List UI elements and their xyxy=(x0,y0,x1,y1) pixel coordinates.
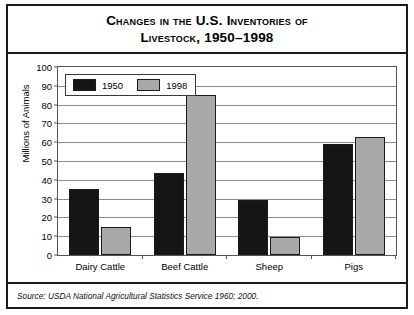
chart-title-line-2: Livestock, 1950–1998 xyxy=(106,29,308,46)
y-axis-tick-label: 50 xyxy=(41,156,52,167)
bar-group: Sheep xyxy=(227,67,312,255)
legend-label-1998: 1998 xyxy=(166,80,187,91)
source-note: Source: USDA National Agricultural Stati… xyxy=(8,291,259,301)
y-axis-tick-label: 10 xyxy=(41,231,52,242)
bar-dairy-cattle-1950 xyxy=(69,189,99,255)
x-axis-label-sheep: Sheep xyxy=(256,261,283,272)
source-label: Source: xyxy=(17,291,46,301)
legend-item-1998: 1998 xyxy=(137,79,187,91)
chart-title-band: Changes in the U.S. Inventories of Lives… xyxy=(8,6,406,54)
bar-sheep-1950 xyxy=(238,200,268,255)
x-axis-label-dairy-cattle: Dairy Cattle xyxy=(75,261,125,272)
y-axis-tick-label: 40 xyxy=(41,174,52,185)
source-band: Source: USDA National Agricultural Stati… xyxy=(8,282,406,307)
x-axis-label-pigs: Pigs xyxy=(345,261,363,272)
y-axis-tick-label: 0 xyxy=(47,250,52,261)
legend-swatch-1998 xyxy=(137,79,160,91)
bar-group: Pigs xyxy=(312,67,397,255)
bar-pigs-1950 xyxy=(323,144,353,255)
x-axis-tick-mark xyxy=(395,255,396,259)
y-axis-tick-label: 90 xyxy=(41,80,52,91)
chart-title: Changes in the U.S. Inventories of Lives… xyxy=(106,12,308,46)
y-axis-tick-label: 20 xyxy=(41,212,52,223)
y-axis-tick-label: 30 xyxy=(41,193,52,204)
x-axis-tick-mark xyxy=(226,255,227,259)
x-axis-tick-mark xyxy=(142,255,143,259)
legend-item-1950: 1950 xyxy=(73,79,123,91)
y-axis-title: Millions of Animals xyxy=(20,54,31,194)
chart-figure: Changes in the U.S. Inventories of Lives… xyxy=(0,0,414,315)
bar-beef-cattle-1950 xyxy=(154,173,184,255)
y-axis-tick-label: 60 xyxy=(41,137,52,148)
y-axis-tick-label: 80 xyxy=(41,99,52,110)
bar-sheep-1998 xyxy=(270,237,300,255)
bar-dairy-cattle-1998 xyxy=(101,227,131,255)
y-axis-tick-label: 70 xyxy=(41,118,52,129)
bar-beef-cattle-1998 xyxy=(186,95,216,255)
x-axis-label-beef-cattle: Beef Cattle xyxy=(161,261,208,272)
legend-label-1950: 1950 xyxy=(102,80,123,91)
y-axis-tick-label: 100 xyxy=(36,62,52,73)
plot-area: 0102030405060708090100 Dairy CattleBeef … xyxy=(57,66,397,256)
chart-legend: 1950 1998 xyxy=(65,74,196,96)
legend-swatch-1950 xyxy=(73,79,96,91)
x-axis-tick-mark xyxy=(311,255,312,259)
bar-pigs-1998 xyxy=(355,137,385,255)
source-body: USDA National Agricultural Statistics Se… xyxy=(46,291,259,301)
chart-title-line-1: Changes in the U.S. Inventories of xyxy=(106,12,308,29)
